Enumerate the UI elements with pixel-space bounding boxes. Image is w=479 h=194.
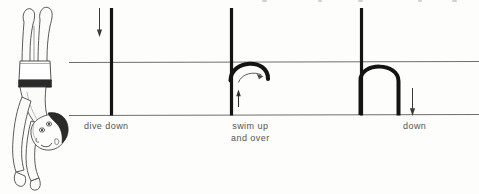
diver-illustration: [0, 0, 479, 194]
panel-1-caption: dive down: [84, 121, 129, 133]
panel-2-caption: swim up and over: [231, 121, 270, 144]
panel-3-caption: down: [403, 121, 426, 133]
diver-figure: [13, 7, 69, 190]
diagram-scene: dive down swim up and over down: [0, 0, 479, 194]
